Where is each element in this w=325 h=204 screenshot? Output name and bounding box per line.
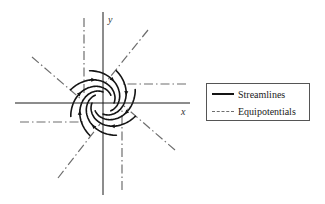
solid-line-swatch-icon — [212, 93, 234, 95]
legend-label-streamlines: Streamlines — [238, 89, 285, 100]
flow-arrow-icon — [91, 78, 96, 82]
equipotential-line — [124, 106, 175, 150]
flow-arrow-icon — [110, 124, 115, 128]
y-axis-label: y — [107, 14, 113, 25]
legend-label-equipotentials: Equipotentials — [238, 106, 296, 117]
equipotential-line — [58, 124, 100, 178]
legend-item-streamlines: Streamlines — [207, 86, 285, 102]
dashed-line-swatch-icon — [212, 111, 234, 112]
flow-arrow-icon — [124, 91, 128, 96]
equipotential-line — [106, 30, 148, 82]
flow-arrow-icon — [78, 110, 82, 115]
legend: Streamlines Equipotentials — [206, 83, 310, 121]
x-axis-label: x — [180, 106, 186, 117]
legend-item-equipotentials: Equipotentials — [207, 103, 296, 119]
equipotential-line — [32, 57, 82, 100]
